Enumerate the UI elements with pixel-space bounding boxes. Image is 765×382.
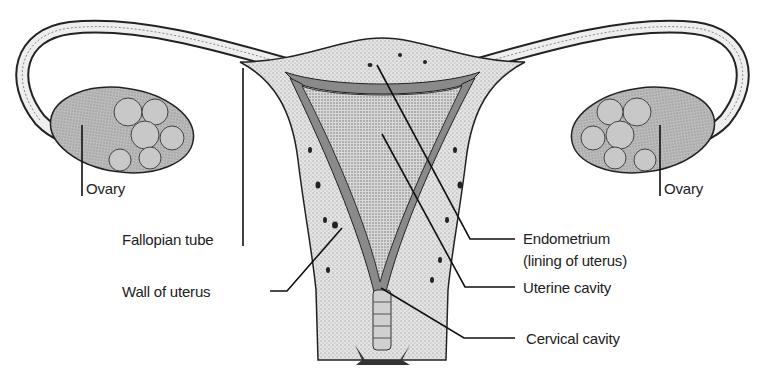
label-endometrium: Endometrium [523, 230, 610, 248]
label-ovary-right: Ovary [664, 180, 703, 198]
left-ovary [45, 78, 199, 181]
label-cervical-cavity: Cervical cavity [526, 330, 620, 348]
label-wall-of-uterus: Wall of uterus [122, 283, 210, 301]
label-endometrium-subtitle: (lining of uterus) [523, 252, 627, 270]
label-ovary-left: Ovary [86, 180, 125, 198]
label-fallopian-tube: Fallopian tube [122, 231, 213, 249]
right-ovary [566, 78, 720, 181]
label-uterine-cavity: Uterine cavity [523, 279, 611, 297]
uterus-anatomy-diagram: Ovary Ovary Fallopian tube Wall of uteru… [0, 0, 765, 382]
